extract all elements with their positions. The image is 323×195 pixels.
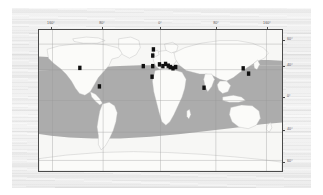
- lon-label-2: 0°: [158, 22, 162, 26]
- lat-label-2: 0°: [287, 95, 291, 99]
- sampling-site-marker[interactable]: [247, 71, 250, 75]
- lat-label-4: 60°: [287, 160, 293, 164]
- lat-label-3: 40°: [287, 128, 293, 132]
- lat-tick-0: [283, 40, 285, 41]
- sampling-site-marker[interactable]: [142, 64, 145, 68]
- lon-label-1: 80°: [99, 22, 105, 26]
- figure-root: 160° 80° 0° 80° 160° 60° 40° 0° 40° 60°: [0, 0, 323, 195]
- sampling-site-marker[interactable]: [78, 66, 81, 70]
- lon-label-0: 160°: [47, 22, 55, 26]
- sampling-site-marker[interactable]: [151, 64, 154, 68]
- sampling-site-marker[interactable]: [202, 86, 205, 90]
- sampling-site-marker[interactable]: [158, 62, 161, 66]
- lat-tick-4: [283, 162, 285, 163]
- lat-tick-3: [283, 130, 285, 131]
- sampling-site-marker[interactable]: [242, 66, 245, 70]
- world-map: [38, 29, 283, 172]
- lon-label-3: 80°: [213, 22, 219, 26]
- world-map-svg: [39, 30, 282, 171]
- lat-label-0: 60°: [287, 38, 293, 42]
- lat-tick-2: [283, 97, 285, 98]
- lon-label-4: 160°: [263, 22, 271, 26]
- sampling-site-marker[interactable]: [151, 53, 154, 57]
- lat-label-1: 40°: [287, 64, 293, 68]
- lat-tick-1: [283, 66, 285, 67]
- sampling-site-marker[interactable]: [174, 65, 177, 69]
- sampling-site-marker[interactable]: [150, 75, 153, 79]
- sampling-site-marker[interactable]: [98, 84, 101, 88]
- sampling-site-marker[interactable]: [152, 47, 155, 51]
